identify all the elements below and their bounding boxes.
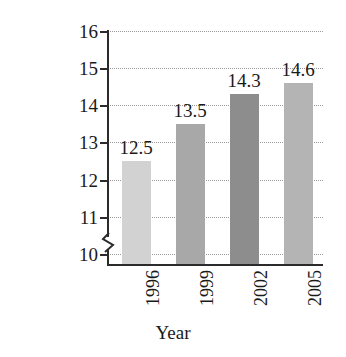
bar-value-label: 14.6	[281, 60, 314, 79]
y-axis-tick-label: 16	[79, 22, 98, 41]
bar[interactable]	[230, 94, 259, 265]
y-axis-tick-label: 11	[80, 207, 98, 226]
bar-chart: Non-Program Minutes in an Hour 101112131…	[0, 0, 346, 357]
y-axis-tick-mark	[100, 217, 107, 219]
gridline	[107, 31, 323, 32]
y-axis-tick-mark	[100, 105, 107, 107]
plot-area: 1011121314151612.513.514.314.6	[107, 31, 323, 265]
bar-value-label: 12.5	[119, 138, 152, 157]
y-axis-tick-label: 10	[79, 244, 98, 263]
y-axis-tick-mark	[100, 31, 107, 33]
y-axis-tick-mark	[100, 254, 107, 256]
y-axis-tick-mark	[100, 68, 107, 70]
y-axis-tick-mark	[100, 180, 107, 182]
x-axis-category-label: 2005	[306, 270, 324, 306]
y-axis-tick-label: 14	[79, 96, 98, 115]
x-axis-category-label: 1999	[198, 270, 216, 306]
axis-break-icon	[99, 232, 117, 254]
bar[interactable]	[176, 124, 205, 265]
y-axis-line	[107, 30, 109, 237]
bar-value-label: 14.3	[227, 71, 260, 90]
x-axis-category-label: 1996	[144, 270, 162, 306]
y-axis-tick-mark	[100, 142, 107, 144]
y-axis-tick-label: 13	[79, 133, 98, 152]
y-axis-tick-label: 12	[79, 170, 98, 189]
x-axis-category-label: 2002	[252, 270, 270, 306]
bar-value-label: 13.5	[173, 101, 206, 120]
bar[interactable]	[284, 83, 313, 265]
x-axis-line	[107, 264, 323, 266]
bar[interactable]	[122, 161, 151, 265]
y-axis-tick-label: 15	[79, 59, 98, 78]
x-axis-title: Year	[0, 322, 346, 344]
